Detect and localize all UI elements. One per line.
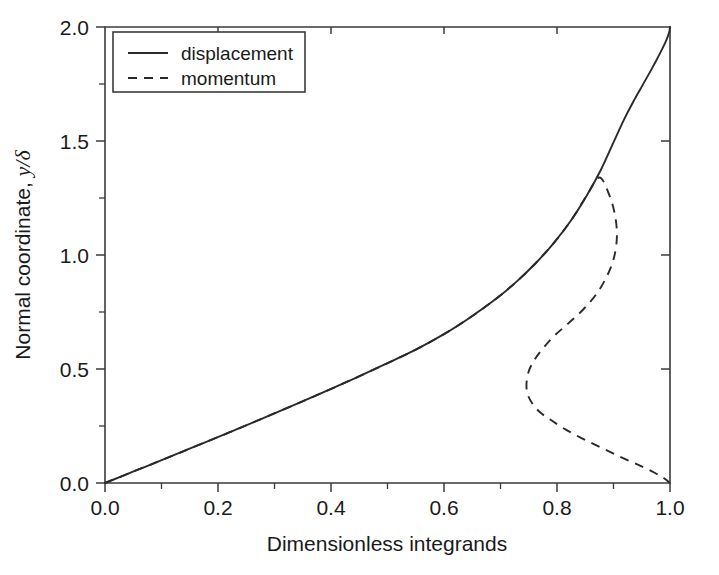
- y-tick-labels: 0.0 0.5 1.0 1.5 2.0: [60, 16, 89, 495]
- y-axis-title-symbol: y/δ: [10, 150, 35, 179]
- y-tick-label: 0.5: [60, 358, 89, 381]
- curve-momentum: [105, 177, 670, 483]
- legend: displacement momentum: [113, 32, 305, 92]
- y-axis-title: Normal coordinate, y/δ: [10, 150, 35, 360]
- axes-rectangle: [105, 27, 670, 483]
- curve-displacement: [105, 27, 670, 483]
- y-tick-label: 1.5: [60, 130, 89, 153]
- right-axis-ticks: [661, 141, 670, 369]
- legend-label-momentum: momentum: [181, 68, 276, 89]
- x-axis-title: Dimensionless integrands: [267, 532, 507, 555]
- chart-svg: 0.0 0.2 0.4 0.6 0.8 1.0 0.0 0.5 1.0 1.5 …: [0, 0, 719, 575]
- y-axis-ticks: [96, 27, 105, 483]
- y-axis-title-prefix: Normal coordinate,: [11, 176, 34, 359]
- x-tick-label: 0.0: [90, 496, 119, 519]
- x-axis-ticks: [105, 483, 670, 492]
- x-tick-label: 1.0: [655, 496, 684, 519]
- y-tick-label: 1.0: [60, 244, 89, 267]
- y-tick-label: 0.0: [60, 472, 89, 495]
- x-tick-label: 0.6: [429, 496, 458, 519]
- x-tick-label: 0.2: [203, 496, 232, 519]
- x-tick-label: 0.8: [542, 496, 571, 519]
- x-tick-label: 0.4: [316, 496, 346, 519]
- figure-container: 0.0 0.2 0.4 0.6 0.8 1.0 0.0 0.5 1.0 1.5 …: [0, 0, 719, 575]
- plot-frame: [105, 27, 670, 483]
- legend-label-displacement: displacement: [181, 43, 294, 64]
- x-tick-labels: 0.0 0.2 0.4 0.6 0.8 1.0: [90, 496, 684, 519]
- data-curves: [105, 27, 670, 483]
- y-tick-label: 2.0: [60, 16, 89, 39]
